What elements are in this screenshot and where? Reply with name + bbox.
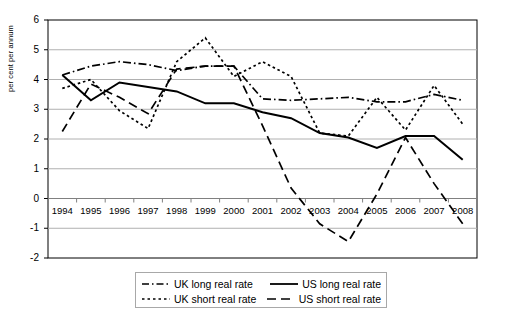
legend-item-us-long-real-rate[interactable]: US long real rate <box>269 278 381 290</box>
chart-legend: UK long real rate US long real rate UK s… <box>135 272 387 308</box>
legend-item-uk-short-real-rate[interactable]: UK short real rate <box>141 293 266 305</box>
chart-figure: per cent per annum UK long real rate US … <box>0 0 508 318</box>
legend-label: US long real rate <box>302 278 381 290</box>
legend-label: US short real rate <box>299 293 381 305</box>
legend-swatch-solid <box>269 279 299 289</box>
y-axis-tick-label: 6 <box>17 14 39 25</box>
legend-label: UK long real rate <box>174 278 253 290</box>
y-axis-title: per cent per annum <box>6 0 15 92</box>
legend-row: UK long real rate US long real rate <box>141 276 381 291</box>
legend-swatch-dashed <box>266 294 296 304</box>
y-axis-tick-label: 2 <box>17 133 39 144</box>
y-axis-tick-label: 5 <box>17 44 39 55</box>
y-axis-tick-label: -2 <box>17 252 39 263</box>
legend-swatch-dotted <box>141 294 171 304</box>
y-axis-tick-label: 1 <box>17 163 39 174</box>
y-axis-tick-label: 4 <box>17 74 39 85</box>
legend-swatch-dash-dot <box>141 279 171 289</box>
legend-row: UK short real rate US short real rate <box>141 291 381 306</box>
y-axis-tick-label: 0 <box>17 193 39 204</box>
x-axis-tick-label: 2008 <box>446 205 480 216</box>
chart-plot-area <box>0 0 508 318</box>
legend-item-us-short-real-rate[interactable]: US short real rate <box>266 293 381 305</box>
legend-item-uk-long-real-rate[interactable]: UK long real rate <box>141 278 269 290</box>
legend-label: UK short real rate <box>174 293 256 305</box>
y-axis-tick-label: -1 <box>17 222 39 233</box>
y-axis-tick-label: 3 <box>17 103 39 114</box>
